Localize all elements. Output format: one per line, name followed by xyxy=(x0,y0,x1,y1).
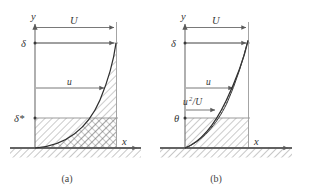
panel-a-y-axis-label: y xyxy=(30,11,36,22)
panel-a-wall-hatch xyxy=(10,149,141,158)
figure-root: y x U δ u δ* (a) xyxy=(0,0,311,190)
panel-a-delta-label: δ xyxy=(21,38,27,49)
panel-b-caption: (b) xyxy=(210,173,222,185)
panel-b-theta-tick xyxy=(184,117,187,120)
panel-b-U-label: U xyxy=(212,15,221,26)
panel-b-y-axis-label: y xyxy=(180,11,186,22)
panel-a-delta-star-label: δ* xyxy=(14,113,25,124)
panel-a-x-axis-label: x xyxy=(121,136,127,147)
panel-b-delta-tick xyxy=(184,42,187,45)
panel-b-u-label: u xyxy=(206,77,211,87)
panel-b-u2U-base: u xyxy=(183,97,188,107)
panel-a-deltastar-tick xyxy=(34,117,37,120)
panel-a: y x U δ u δ* (a) xyxy=(10,11,141,185)
panel-b-u2U-label: u 2 /U xyxy=(183,95,203,107)
panel-b-wall-hatch xyxy=(160,149,292,158)
panel-a-caption: (a) xyxy=(61,173,72,185)
panel-a-delta-tick xyxy=(34,42,37,45)
panel-b-delta-label: δ xyxy=(171,38,177,49)
panel-a-u-label: u xyxy=(67,77,72,87)
panel-b: y x U δ u u 2 /U θ (b) xyxy=(160,11,292,185)
panel-a-U-label: U xyxy=(70,15,79,26)
panel-b-x-axis-label: x xyxy=(253,136,259,147)
panel-b-theta-label: θ xyxy=(174,113,179,124)
boundary-layer-figure: y x U δ u δ* (a) xyxy=(0,0,311,190)
panel-b-u2U-denominator: /U xyxy=(192,97,204,107)
